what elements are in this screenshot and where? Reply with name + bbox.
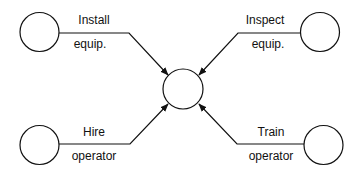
label-train-line2: operator — [236, 149, 306, 163]
label-inspect-line2: equip. — [233, 37, 303, 51]
label-train-line1: Train — [236, 125, 306, 139]
node-train-start — [304, 126, 343, 165]
label-hire-line2: operator — [59, 149, 129, 163]
label-hire-line1: Hire — [59, 125, 129, 139]
node-install-start — [20, 13, 59, 52]
label-install-line1: Install — [59, 13, 129, 27]
network-diagram — [0, 0, 360, 172]
node-inspect-start — [301, 13, 340, 52]
label-install-line2: equip. — [55, 37, 125, 51]
node-hire-start — [20, 126, 59, 165]
node-center — [163, 69, 203, 109]
label-inspect-line1: Inspect — [230, 13, 300, 27]
